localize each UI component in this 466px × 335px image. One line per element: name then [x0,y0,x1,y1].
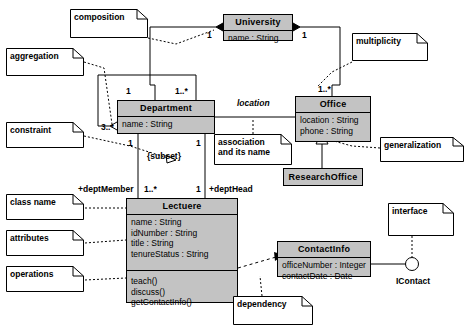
note-attributes[interactable]: attributes [6,230,84,256]
multiplicity-university-left: 1 [207,30,212,40]
class-name-research-office: ResearchOffice [284,169,362,185]
attribute-row: name : String [228,33,289,44]
role-dept-head: +deptHead [209,184,253,194]
attribute-row: tenureStatus : String [131,249,234,260]
note-operations[interactable]: operations [6,266,84,292]
class-box-lecturer[interactable]: Lectuere name : String idNumber : String… [126,198,238,303]
constraint-subset: {subset} [147,151,181,161]
multiplicity-department-self-one: 1 [126,86,131,96]
operation-row: teach() [131,276,234,287]
attribute-row: name : String [131,217,234,228]
class-attributes-lecturer: name : String idNumber : String title : … [127,215,237,270]
class-name-office: Office [296,97,370,113]
note-aggregation[interactable]: aggregation [6,48,84,76]
uml-class-diagram-canvas: University name : String Department name… [0,0,466,335]
note-text-line-1: association [218,137,282,147]
association-name-location: location [237,98,270,108]
note-text: interface [392,206,444,216]
note-text: generalization [384,140,454,150]
class-attributes-university: name : String [224,31,292,46]
multiplicity-university-right: 1 [302,30,307,40]
note-text: attributes [10,233,74,243]
note-text: aggregation [10,51,74,61]
role-dept-member: +deptMember [78,184,134,194]
class-box-contact-info[interactable]: ContactInfo officeNumber : Integer conta… [277,241,371,277]
class-name-lecturer: Lectuere [127,199,237,215]
class-name-university: University [224,15,292,31]
note-text: multiplicity [356,36,418,46]
class-box-department[interactable]: Department name : String [117,100,215,134]
note-generalization[interactable]: generalization [380,137,464,162]
attribute-row: idNumber : String [131,228,234,239]
note-constraint[interactable]: constraint [6,122,84,148]
note-multiplicity[interactable]: multiplicity [352,33,428,61]
interface-name-icontact: IContact [396,276,430,286]
attribute-row: name : String [122,119,211,130]
attribute-row: officeNumber : Integer [282,260,367,271]
note-interface[interactable]: interface [388,203,454,236]
multiplicity-dept-head: 1 [196,184,201,194]
note-text: dependency [237,299,303,309]
note-class-name[interactable]: class name [6,194,84,220]
class-attributes-office: location : String phone : String [296,113,370,138]
multiplicity-department-association-right: 1 [196,138,201,148]
class-operations-lecturer: teach() discuss() getContactInfo() [127,270,237,310]
class-box-university[interactable]: University name : String [223,14,293,41]
attribute-row: contactDate : Date [282,271,367,282]
attribute-row: phone : String [300,126,367,137]
note-text: composition [74,12,138,22]
note-text: class name [10,197,74,207]
class-box-research-office[interactable]: ResearchOffice [283,168,363,186]
operation-row: getContactInfo() [131,297,234,308]
operation-row: discuss() [131,287,234,298]
note-text-line-2: and its name [218,147,282,157]
multiplicity-dept-member: 1..* [144,184,157,194]
note-text: operations [10,269,74,279]
multiplicity-department-self-many: 3..* [101,122,114,132]
class-attributes-contact-info: officeNumber : Integer contactDate : Dat… [278,258,370,283]
class-attributes-department: name : String [118,117,214,132]
class-box-office[interactable]: Office location : String phone : String [295,96,371,142]
multiplicity-department-top: 1..* [175,86,188,96]
attribute-row: location : String [300,115,367,126]
note-association[interactable]: association and its name [214,134,292,165]
note-text: constraint [10,125,74,135]
note-composition[interactable]: composition [70,9,148,38]
class-name-contact-info: ContactInfo [278,242,370,258]
multiplicity-office-top: 1..* [318,84,331,94]
note-dependency[interactable]: dependency [233,296,313,325]
multiplicity-department-association-left: 1 [128,138,133,148]
class-name-department: Department [118,101,214,117]
attribute-row: title : String [131,238,234,249]
